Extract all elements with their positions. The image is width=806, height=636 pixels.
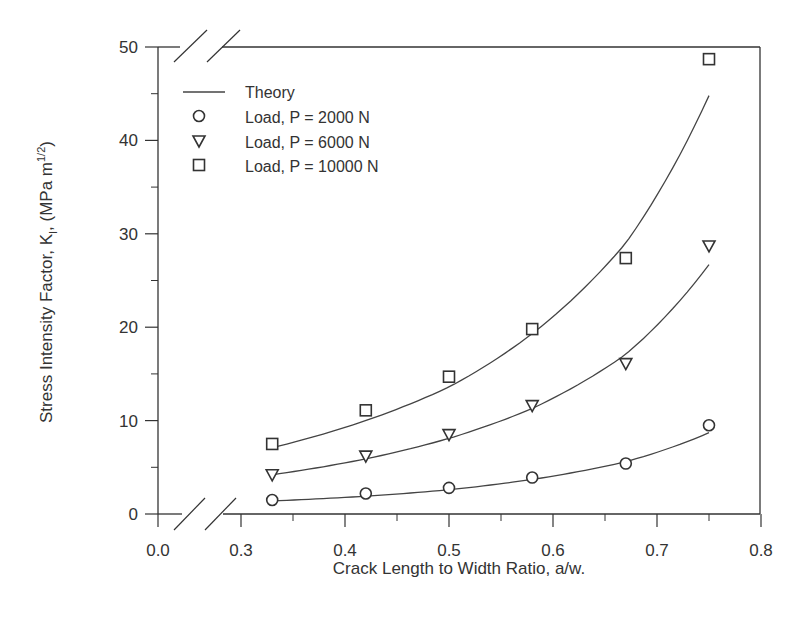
- triangle-down-marker-icon: [360, 451, 372, 462]
- x-tick-label: 0.0: [146, 541, 170, 560]
- circle-marker-icon: [360, 488, 371, 499]
- y-axis-title-sup: 1/2: [35, 147, 47, 162]
- square-marker-icon: [527, 324, 538, 335]
- y-tick-label: 0: [129, 505, 138, 524]
- axis-break-icon: [174, 30, 207, 62]
- y-axis-title: Stress Intensity Factor, KI, (MPa m1/2): [35, 141, 59, 423]
- square-marker-icon: [444, 371, 455, 382]
- axis-break-icon: [207, 30, 240, 62]
- x-tick-label: 0.5: [437, 541, 461, 560]
- square-marker-icon: [704, 54, 715, 65]
- x-tick-label: 0.4: [333, 541, 357, 560]
- y-axis-title-main: Stress Intensity Factor, K: [37, 233, 56, 423]
- axis-break-marks: [174, 30, 240, 530]
- circle-marker-icon: [620, 458, 631, 469]
- theory-curves: [272, 96, 709, 501]
- y-axis-title-mid: , (MPa m: [37, 162, 56, 231]
- x-axis-title: Crack Length to Width Ratio, a/w.: [333, 559, 585, 578]
- square-marker-icon: [360, 405, 371, 416]
- y-tick-label: 10: [119, 412, 138, 431]
- circle-marker-icon: [267, 494, 278, 505]
- x-tick-label: 0.3: [229, 541, 253, 560]
- circle-marker-icon: [527, 472, 538, 483]
- triangle-down-marker-icon: [193, 136, 205, 147]
- square-marker-icon: [620, 253, 631, 264]
- legend-label: Theory: [245, 84, 295, 101]
- y-axis-title-end: ): [37, 141, 56, 147]
- legend-label: Load, P = 2000 N: [245, 109, 370, 126]
- y-axis-ticks: 01020304050: [119, 38, 158, 524]
- stress-intensity-chart: 0.00.30.40.50.60.70.8 01020304050 Theory…: [0, 0, 806, 636]
- x-axis-ticks: 0.00.30.40.50.60.70.8: [146, 514, 773, 560]
- y-tick-label: 50: [119, 38, 138, 57]
- square-marker-icon: [267, 438, 278, 449]
- theory-curve: [272, 433, 709, 501]
- circle-marker-icon: [704, 420, 715, 431]
- triangle-down-marker-icon: [266, 470, 278, 481]
- triangle-down-marker-icon: [620, 359, 632, 370]
- y-tick-label: 20: [119, 318, 138, 337]
- legend: TheoryLoad, P = 2000 NLoad, P = 6000 NLo…: [183, 84, 379, 175]
- circle-marker-icon: [444, 482, 455, 493]
- legend-label: Load, P = 10000 N: [245, 158, 379, 175]
- x-tick-label: 0.8: [749, 541, 773, 560]
- y-tick-label: 30: [119, 225, 138, 244]
- theory-curve: [272, 265, 709, 475]
- y-tick-label: 40: [119, 131, 138, 150]
- x-tick-label: 0.7: [645, 541, 669, 560]
- square-marker-icon: [194, 160, 205, 171]
- x-tick-label: 0.6: [541, 541, 565, 560]
- legend-label: Load, P = 6000 N: [245, 134, 370, 151]
- circle-marker-icon: [194, 111, 205, 122]
- triangle-down-marker-icon: [703, 241, 715, 252]
